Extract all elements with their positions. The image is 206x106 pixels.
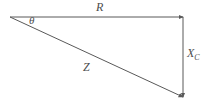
impedance-vector-Z <box>10 17 183 97</box>
reactance-label: XC <box>187 47 200 62</box>
impedance-phasor-figure: R Z θ XC <box>0 0 206 106</box>
impedance-label: Z <box>83 61 90 73</box>
angle-theta-label: θ <box>29 15 34 26</box>
resistance-label: R <box>96 1 103 13</box>
reactance-subscript: C <box>194 53 199 62</box>
